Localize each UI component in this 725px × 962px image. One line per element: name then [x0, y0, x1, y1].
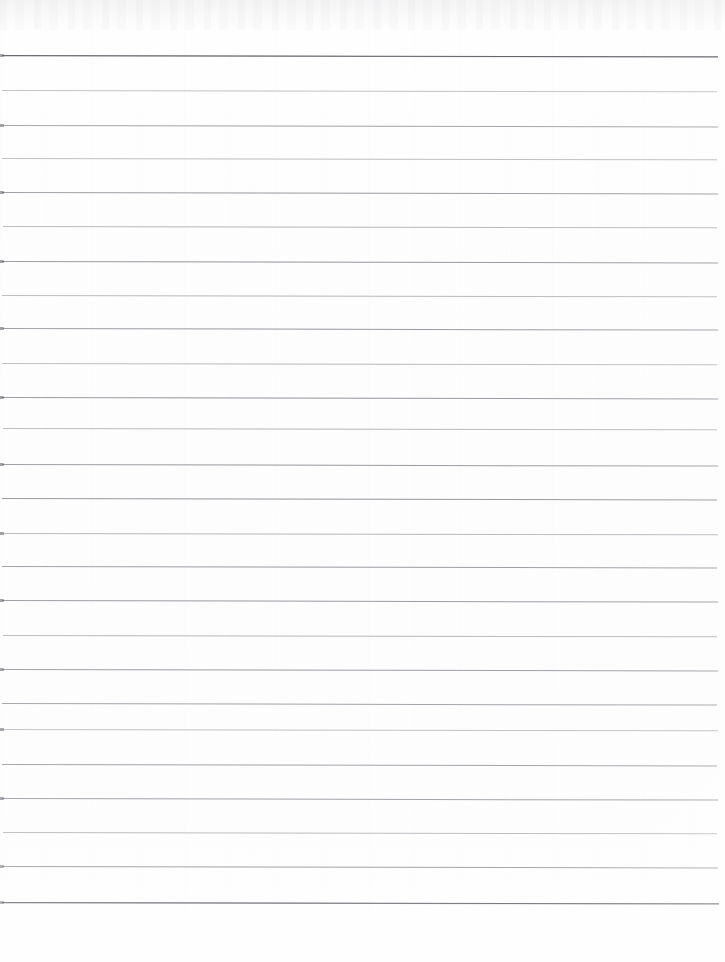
ruled-line	[3, 328, 718, 331]
scan-edge-notch	[0, 396, 4, 399]
ruled-line	[2, 464, 718, 467]
ruled-line	[2, 397, 718, 399]
ruled-line	[2, 295, 717, 297]
scan-edge-notch	[0, 191, 4, 194]
ruled-line	[3, 832, 717, 834]
scan-edge-notch	[0, 327, 4, 330]
scan-edge-notch	[0, 865, 4, 868]
ruled-line	[3, 533, 718, 535]
scan-edge-notch	[0, 54, 4, 57]
ruled-line	[3, 226, 717, 228]
ruled-line	[3, 125, 718, 127]
ruled-line	[2, 764, 717, 766]
ruled-line	[2, 902, 719, 904]
ruled-line	[2, 566, 717, 568]
ruled-line-layer	[0, 0, 725, 962]
ruled-line	[2, 669, 718, 671]
ruled-line	[2, 192, 718, 194]
scan-edge-notch	[0, 797, 4, 800]
scan-edge-notch	[0, 260, 4, 263]
ruled-line	[3, 729, 718, 731]
ruled-line	[2, 261, 718, 263]
ruled-line	[2, 798, 718, 801]
ruled-line	[2, 90, 717, 92]
scan-edge-notch	[0, 901, 4, 904]
ruled-line	[2, 866, 718, 868]
scanned-page	[0, 0, 725, 962]
scan-edge-notch	[0, 124, 4, 127]
ruled-line	[3, 635, 717, 637]
ruled-line	[3, 428, 717, 430]
ruled-line	[2, 158, 717, 160]
scan-edge-notch	[0, 668, 4, 671]
scan-edge-notch	[0, 599, 4, 602]
scan-edge-notch	[0, 532, 4, 535]
ruled-line	[2, 55, 718, 57]
ruled-line	[2, 498, 717, 500]
ruled-line	[2, 600, 718, 603]
ruled-line	[2, 363, 717, 365]
scan-edge-notch	[0, 463, 4, 466]
scan-edge-notch	[0, 728, 4, 731]
ruled-line	[2, 703, 717, 706]
